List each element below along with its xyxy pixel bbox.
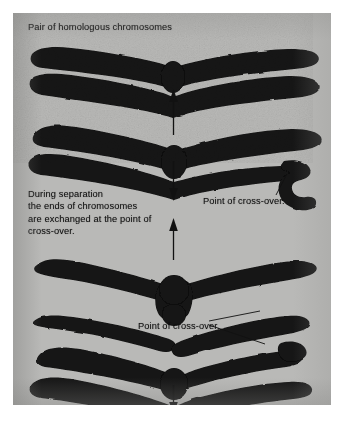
panel-3-homologous-pair-separating	[33, 259, 317, 357]
cross-over-label-lower: Point of cross-over.	[138, 320, 220, 332]
chiasma-knot-p3	[159, 275, 189, 305]
chiasma-knot-p1	[161, 61, 185, 93]
arm-upper-right-p3	[171, 261, 316, 302]
page-title: Pair of homologous chromosomes	[28, 21, 172, 33]
figure-page: Pair of homologous chromosomes During se…	[13, 13, 331, 405]
separation-caption: During separation the ends of chromosome…	[28, 188, 151, 238]
panel-4-homologous-pair-exchanged	[30, 342, 312, 405]
panel-1-homologous-pair-paired	[30, 47, 320, 118]
arrow-up-panel3	[169, 218, 178, 260]
cross-over-label-upper: Point of cross-over.	[203, 195, 285, 207]
